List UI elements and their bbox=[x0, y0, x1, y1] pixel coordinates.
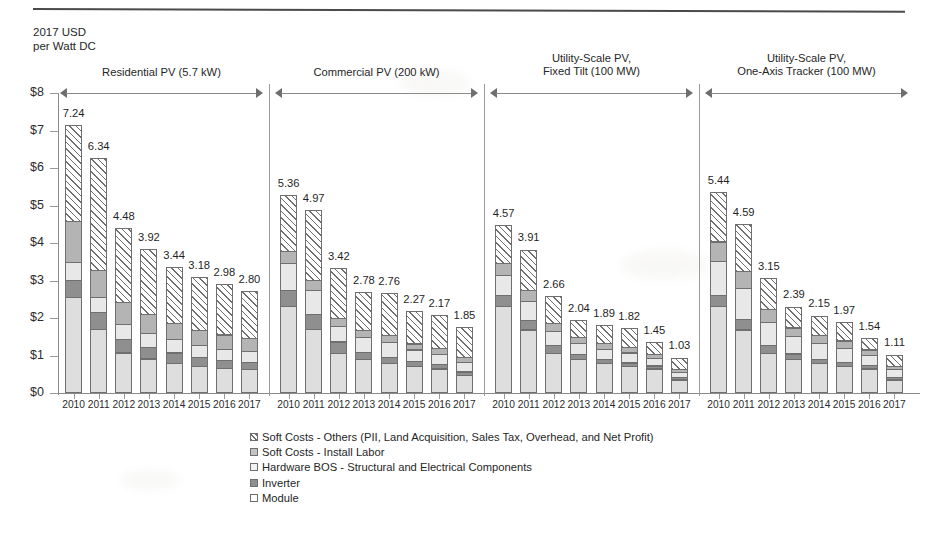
group-separator bbox=[484, 84, 485, 396]
bar-segment-labor bbox=[115, 302, 132, 325]
bar-segment-soft bbox=[381, 293, 398, 336]
legend-swatch-module-icon bbox=[250, 494, 258, 502]
bar-segment-inverter bbox=[280, 290, 297, 307]
legend-label: Inverter bbox=[262, 477, 300, 489]
x-tick-label: 2014 bbox=[163, 399, 186, 410]
bar-value-label: 6.34 bbox=[88, 140, 110, 152]
bar-value-label: 1.85 bbox=[454, 309, 476, 321]
x-tick-label: 2015 bbox=[188, 399, 211, 410]
bar-segment-module bbox=[836, 366, 853, 393]
bar-segment-soft bbox=[861, 338, 878, 350]
bar-segment-inverter bbox=[710, 295, 727, 307]
x-tick-mark bbox=[504, 394, 505, 399]
y-axis-title: 2017 USD per Watt DC bbox=[33, 26, 96, 53]
group-separator bbox=[269, 84, 270, 396]
bar-segment-bos bbox=[710, 261, 727, 296]
legend-swatch-bos-icon bbox=[250, 463, 258, 471]
stacked-bar bbox=[456, 324, 473, 393]
x-tick-mark bbox=[389, 394, 390, 399]
bar-segment-labor bbox=[90, 270, 107, 298]
y-tick-mark bbox=[50, 281, 58, 282]
bar-segment-soft bbox=[811, 316, 828, 336]
x-tick-mark bbox=[439, 394, 440, 399]
bar-segment-module bbox=[216, 368, 233, 393]
stacked-bar bbox=[216, 281, 233, 393]
bar-segment-bos bbox=[760, 322, 777, 346]
x-tick-mark bbox=[199, 394, 200, 399]
bar-value-label: 1.45 bbox=[643, 324, 665, 336]
header-rule bbox=[33, 8, 905, 13]
x-tick-mark bbox=[844, 394, 845, 399]
bar-segment-soft bbox=[456, 327, 473, 358]
group-header-3: Utility-Scale PV,Fixed Tilt (100 MW) bbox=[486, 52, 697, 78]
x-tick-mark bbox=[149, 394, 150, 399]
stacked-bar bbox=[596, 322, 613, 393]
bar-segment-module bbox=[760, 353, 777, 393]
bar-segment-bos bbox=[785, 336, 802, 354]
x-tick-mark bbox=[654, 394, 655, 399]
group-header-1: Residential PV (5.7 kW) bbox=[56, 66, 267, 79]
x-tick-label: 2010 bbox=[277, 399, 300, 410]
bar-segment-labor bbox=[495, 263, 512, 276]
bar-segment-module bbox=[596, 363, 613, 393]
bar-segment-soft bbox=[671, 358, 688, 370]
x-tick-label: 2016 bbox=[858, 399, 881, 410]
bar-segment-soft bbox=[785, 307, 802, 329]
x-tick-label: 2011 bbox=[733, 399, 755, 410]
x-tick-label: 2012 bbox=[757, 399, 780, 410]
x-tick-mark bbox=[314, 394, 315, 399]
bar-segment-module bbox=[431, 369, 448, 393]
x-tick-mark bbox=[174, 394, 175, 399]
x-tick-label: 2011 bbox=[518, 399, 540, 410]
bar-segment-labor bbox=[216, 335, 233, 350]
bar-value-label: 2.80 bbox=[239, 273, 261, 285]
y-tick-mark bbox=[50, 93, 58, 94]
y-tick-label: $3 bbox=[0, 273, 44, 287]
x-tick-label: 2011 bbox=[88, 399, 110, 410]
x-tick-label: 2016 bbox=[428, 399, 451, 410]
bar-value-label: 1.89 bbox=[593, 307, 615, 319]
bar-segment-bos bbox=[216, 349, 233, 361]
bar-segment-inverter bbox=[305, 314, 322, 330]
x-tick-label: 2010 bbox=[707, 399, 730, 410]
bar-segment-bos bbox=[520, 301, 537, 321]
bar-value-label: 1.82 bbox=[618, 310, 640, 322]
x-tick-label: 2012 bbox=[327, 399, 350, 410]
bar-segment-module bbox=[115, 353, 132, 394]
legend-swatch-soft-icon bbox=[250, 433, 258, 441]
legend-item-soft: Soft Costs - Others (PII, Land Acquisiti… bbox=[250, 429, 654, 444]
stacked-bar bbox=[431, 312, 448, 393]
stacked-bar bbox=[90, 155, 107, 393]
bar-segment-labor bbox=[65, 221, 82, 263]
x-tick-label: 2010 bbox=[492, 399, 515, 410]
bar-segment-soft bbox=[115, 228, 132, 303]
stacked-bar bbox=[570, 317, 587, 394]
bar-segment-module bbox=[280, 306, 297, 393]
bar-segment-bos bbox=[545, 331, 562, 346]
bar-value-label: 2.15 bbox=[808, 297, 830, 309]
bar-value-label: 5.44 bbox=[708, 174, 730, 186]
bar-segment-soft bbox=[570, 320, 587, 338]
bar-segment-inverter bbox=[65, 280, 82, 298]
bar-segment-labor bbox=[241, 338, 258, 352]
bar-segment-module bbox=[406, 366, 423, 393]
y-tick-mark bbox=[50, 243, 58, 244]
bar-value-label: 3.91 bbox=[518, 231, 540, 243]
stacked-bar bbox=[280, 192, 297, 393]
x-tick-mark bbox=[869, 394, 870, 399]
bar-segment-soft bbox=[355, 292, 372, 331]
y-tick-label: $4 bbox=[0, 235, 44, 249]
bar-segment-soft bbox=[65, 125, 82, 223]
bar-value-label: 1.97 bbox=[833, 304, 855, 316]
x-tick-mark bbox=[529, 394, 530, 399]
bar-segment-module bbox=[241, 369, 258, 393]
y-tick-label: $5 bbox=[0, 198, 44, 212]
bar-segment-soft bbox=[241, 291, 258, 339]
group-separator bbox=[699, 84, 700, 396]
bar-segment-soft bbox=[621, 328, 638, 348]
stacked-bar bbox=[140, 246, 157, 393]
stacked-bar bbox=[166, 264, 183, 393]
stacked-bar bbox=[381, 290, 398, 394]
bar-segment-module bbox=[886, 380, 903, 394]
x-tick-label: 2015 bbox=[833, 399, 856, 410]
